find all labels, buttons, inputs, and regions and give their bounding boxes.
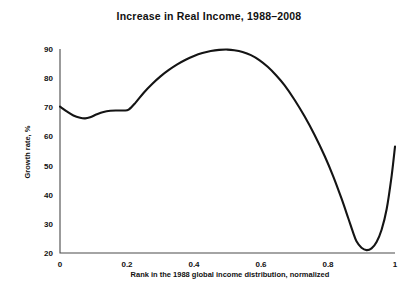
x-tick-label: 0.8 — [322, 260, 334, 269]
axis-lines — [60, 49, 395, 253]
y-tick-label: 90 — [44, 45, 53, 54]
x-axis-title: Rank in the 1988 global income distribut… — [131, 270, 330, 279]
y-axis-tick-labels: 2030405060708090 — [44, 45, 53, 258]
data-series-line — [60, 50, 395, 251]
x-tick-label: 0 — [58, 260, 63, 269]
x-tick-label: 0.2 — [121, 260, 133, 269]
x-tick-label: 1 — [393, 260, 398, 269]
chart-figure: Increase in Real Income, 1988–2008 20304… — [0, 0, 418, 302]
y-tick-label: 80 — [44, 74, 53, 83]
y-tick-label: 60 — [44, 132, 53, 141]
x-tick-label: 0.4 — [188, 260, 200, 269]
x-axis-tick-labels: 00.20.40.60.81 — [58, 260, 398, 269]
y-tick-label: 30 — [44, 220, 53, 229]
y-tick-label: 20 — [44, 249, 53, 258]
y-axis-title: Growth rate, % — [23, 125, 32, 178]
y-tick-label: 40 — [44, 191, 53, 200]
x-tick-label: 0.6 — [255, 260, 267, 269]
y-tick-label: 50 — [44, 162, 53, 171]
y-tick-label: 70 — [44, 103, 53, 112]
line-chart-plot: 2030405060708090 00.20.40.60.81 Growth r… — [0, 0, 418, 302]
